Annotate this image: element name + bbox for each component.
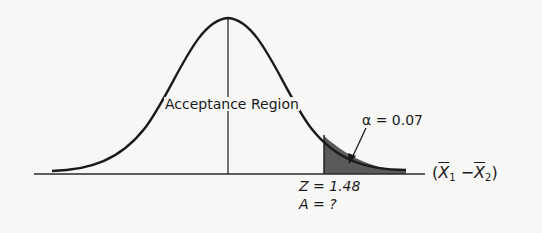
acceptance-region-label: Acceptance Region [164,97,300,111]
z-value-label: Z = 1.48 [299,179,360,193]
alpha-label: α = 0.07 [362,113,423,127]
axis-close-paren: ) [491,163,497,182]
axis-var1: X [438,163,449,182]
normal-curve-diagram [0,0,542,233]
axis-minus: − [456,163,475,182]
bell-curve [52,18,406,171]
rejection-region-shading [324,136,406,174]
axis-label: (X1 −X2) [432,165,498,183]
axis-var2: X [474,163,485,182]
alpha-arrow-shaft [352,128,366,158]
area-label: A = ? [299,197,337,211]
